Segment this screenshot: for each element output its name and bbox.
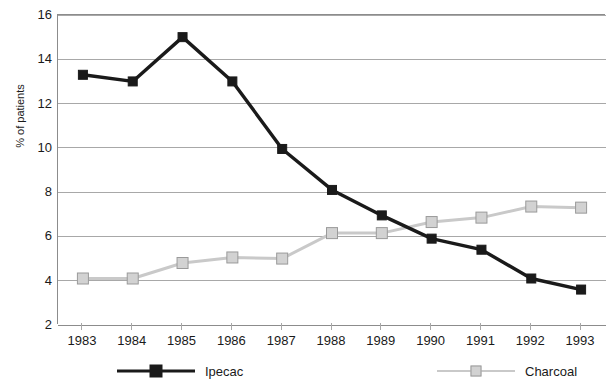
data-point-marker	[227, 252, 238, 263]
x-axis-tick-mark	[131, 323, 132, 330]
data-point-marker	[377, 211, 386, 220]
x-tick-label: 1992	[516, 334, 545, 347]
series-line	[83, 37, 581, 289]
y-axis-tick-labels: 161412108642	[12, 0, 52, 391]
legend-label: Charcoal	[525, 364, 577, 379]
data-point-marker	[576, 202, 587, 213]
legend-marker	[471, 366, 482, 377]
legend-label: Ipecac	[205, 364, 243, 379]
y-tick-label: 10	[18, 141, 52, 154]
x-axis-tick-mark	[380, 323, 381, 330]
data-point-marker	[577, 285, 586, 294]
x-tick-label: 1987	[267, 334, 296, 347]
x-tick-label: 1993	[566, 334, 595, 347]
x-axis-tick-mark	[430, 323, 431, 330]
chart-legend: IpecacCharcoal	[0, 358, 616, 388]
y-tick-label: 8	[18, 185, 52, 198]
line-chart: % of patients 161412108642 1983198419851…	[0, 0, 616, 391]
series-layer	[58, 15, 606, 325]
legend-item-ipecac[interactable]: Ipecac	[117, 358, 243, 384]
data-point-marker	[427, 234, 436, 243]
x-axis-tick-mark	[331, 323, 332, 330]
x-axis-tick-mark	[81, 323, 82, 330]
data-point-marker	[78, 70, 87, 79]
data-point-marker	[178, 33, 187, 42]
y-tick-label: 16	[18, 8, 52, 21]
data-point-marker	[177, 258, 188, 269]
data-point-marker	[527, 274, 536, 283]
data-point-marker	[376, 228, 387, 239]
x-axis-tick-mark	[181, 323, 182, 330]
legend-marker	[150, 365, 163, 378]
y-tick-label: 4	[18, 274, 52, 287]
y-tick-label: 12	[18, 97, 52, 110]
y-tick-label: 14	[18, 52, 52, 65]
data-point-marker	[278, 144, 287, 153]
x-axis-tick-labels: 1983198419851986198719881989199019911992…	[57, 330, 605, 350]
x-axis-tick-mark	[530, 323, 531, 330]
x-tick-label: 1983	[67, 334, 96, 347]
x-tick-label: 1989	[366, 334, 395, 347]
legend-swatch	[117, 364, 195, 378]
x-tick-label: 1988	[317, 334, 346, 347]
data-point-marker	[476, 212, 487, 223]
x-axis-tick-mark	[580, 323, 581, 330]
data-point-marker	[127, 273, 138, 284]
data-point-marker	[277, 253, 288, 264]
series-charcoal	[77, 201, 586, 284]
y-tick-label: 2	[18, 318, 52, 331]
data-point-marker	[228, 77, 237, 86]
x-tick-label: 1991	[466, 334, 495, 347]
x-axis-tick-mark	[231, 323, 232, 330]
x-tick-label: 1986	[217, 334, 246, 347]
x-axis-tick-mark	[281, 323, 282, 330]
x-tick-label: 1990	[416, 334, 445, 347]
legend-swatch	[437, 364, 515, 378]
data-point-marker	[426, 217, 437, 228]
x-tick-label: 1984	[117, 334, 146, 347]
data-point-marker	[128, 77, 137, 86]
series-line	[83, 207, 581, 279]
data-point-marker	[328, 185, 337, 194]
plot-area	[57, 14, 605, 324]
data-point-marker	[77, 273, 88, 284]
data-point-marker	[526, 201, 537, 212]
y-tick-label: 6	[18, 229, 52, 242]
data-point-marker	[327, 228, 338, 239]
series-ipecac	[78, 33, 585, 294]
x-tick-label: 1985	[167, 334, 196, 347]
data-point-marker	[477, 245, 486, 254]
x-axis-tick-mark	[480, 323, 481, 330]
legend-item-charcoal[interactable]: Charcoal	[437, 358, 577, 384]
